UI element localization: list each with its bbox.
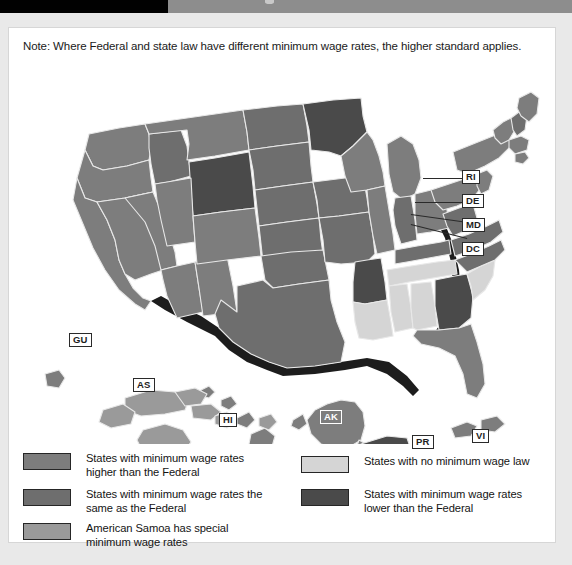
island-HI-maui: [237, 412, 255, 428]
state-FL: [413, 324, 485, 398]
island-HI-bigisland: [249, 428, 275, 444]
map-label-AS: AS: [133, 378, 155, 392]
map-label-DE: DE: [462, 194, 484, 208]
island-AS-5: [137, 424, 191, 444]
legend-item-samoa: American Samoa has special minimum wage …: [23, 522, 273, 549]
legend-swatch-same: [23, 489, 71, 506]
state-MS: [389, 284, 413, 332]
map-label-DC: DC: [462, 242, 484, 256]
state-IN: [393, 196, 417, 244]
state-CO: [193, 208, 261, 264]
legend-item-same: States with minimum wage rates the same …: [23, 488, 288, 515]
map-label-PR: PR: [412, 435, 434, 449]
island-AS-7: [259, 414, 277, 430]
state-GA: [435, 274, 473, 330]
map-label-GU: GU: [69, 333, 92, 347]
topbar-black-block: [0, 0, 168, 13]
island-GU: [45, 370, 65, 388]
legend-item-none: States with no minimum wage law: [301, 455, 551, 473]
map-svg: .s { stroke:#e8e8e8; stroke-width:1.1; s…: [15, 74, 549, 444]
legend-label-lower: States with minimum wage rates lower tha…: [364, 488, 522, 515]
island-HI-oahu: [221, 396, 237, 410]
map-label-VI: VI: [472, 429, 489, 443]
legend-label-none: States with no minimum wage law: [364, 455, 529, 469]
us-minimum-wage-map: .s { stroke:#e8e8e8; stroke-width:1.1; s…: [15, 74, 549, 444]
map-label-RI: RI: [462, 170, 480, 184]
state-ID: [149, 130, 191, 184]
map-label-AK: AK: [320, 410, 342, 424]
legend-swatch-samoa: [23, 523, 71, 540]
legend-label-higher: States with minimum wage rates higher th…: [86, 452, 244, 479]
legend-swatch-none: [301, 456, 349, 473]
state-AL: [411, 282, 437, 330]
legend-item-higher: States with minimum wage rates higher th…: [23, 452, 273, 479]
state-MO: [319, 212, 375, 264]
legend-item-lower: States with minimum wage rates lower tha…: [301, 488, 551, 515]
state-LA: [353, 300, 393, 340]
topbar-indicator-icon: [265, 0, 274, 4]
map-label-HI: HI: [219, 413, 237, 427]
state-AR: [353, 258, 387, 304]
window-topbar: [0, 0, 572, 13]
state-group-northeast: [431, 92, 539, 210]
map-note: Note: Where Federal and state law have d…: [23, 40, 521, 52]
legend-swatch-higher: [23, 453, 71, 470]
legend-swatch-lower: [301, 489, 349, 506]
state-group-west: [73, 110, 261, 318]
island-PR: [359, 436, 411, 444]
state-AK-west-arm: [291, 414, 307, 430]
state-MI: [387, 136, 421, 200]
map-label-MD: MD: [462, 218, 485, 232]
state-WY: [189, 152, 255, 216]
leader-line-RI: [423, 178, 463, 179]
leader-line-DE: [415, 202, 463, 203]
map-legend: States with minimum wage rates higher th…: [15, 452, 549, 538]
state-group-pacific-territories: [45, 370, 277, 444]
state-CT: [515, 152, 529, 164]
legend-label-same: States with minimum wage rates the same …: [86, 488, 262, 515]
legend-label-samoa: American Samoa has special minimum wage …: [86, 522, 228, 549]
state-MA: [509, 136, 529, 154]
content-card: Note: Where Federal and state law have d…: [8, 27, 556, 543]
